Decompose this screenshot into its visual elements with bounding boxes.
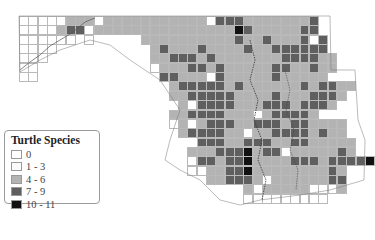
grid-cell <box>47 44 57 54</box>
legend-title: Turtle Species <box>11 134 93 146</box>
legend-label: 1 - 3 <box>26 161 45 172</box>
legend-label: 7 - 9 <box>26 186 45 197</box>
grid-cell <box>337 91 347 101</box>
legend-swatch <box>11 200 22 209</box>
grid-cell <box>328 100 338 110</box>
legend-swatch <box>11 150 22 159</box>
legend-item-10-11: 10 - 11 <box>11 198 93 211</box>
legend-swatch <box>11 187 22 196</box>
grid-cell <box>84 35 94 45</box>
legend-swatch <box>11 162 22 171</box>
legend-label: 4 - 6 <box>26 174 45 185</box>
grid-cell <box>38 53 48 63</box>
grid-cell <box>318 194 328 204</box>
grid-cell <box>337 184 347 194</box>
grid-cell <box>365 156 375 166</box>
grid-cell <box>346 81 356 91</box>
grid-cell <box>328 63 338 73</box>
legend-label: 10 - 11 <box>26 199 55 210</box>
grid-cell <box>28 72 38 82</box>
grid-cell <box>66 35 76 45</box>
legend-swatch <box>11 175 22 184</box>
legend-item-0: 0 <box>11 148 93 161</box>
legend-item-4-6: 4 - 6 <box>11 173 93 186</box>
legend: Turtle Species 0 1 - 3 4 - 6 7 - 9 10 - … <box>4 130 100 204</box>
legend-label: 0 <box>26 149 31 160</box>
legend-item-1-3: 1 - 3 <box>11 161 93 174</box>
legend-item-7-9: 7 - 9 <box>11 186 93 199</box>
